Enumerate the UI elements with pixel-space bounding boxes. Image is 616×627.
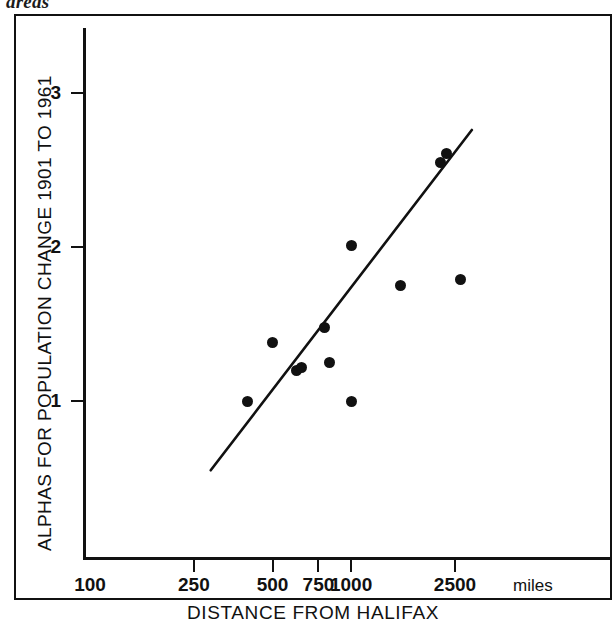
data-point (242, 396, 253, 407)
x-axis-tick-label: 2500 (434, 575, 476, 594)
data-point (324, 357, 335, 368)
x-axis-tick-mark (454, 559, 456, 572)
data-point (319, 322, 330, 333)
y-axis-title: ALPHAS FOR POPULATION CHANGE 1901 TO 196… (34, 31, 56, 551)
x-axis-unit-label: miles (513, 576, 553, 596)
plot-area: 123 10025050075010002500 miles DISTANCE … (0, 0, 616, 627)
data-point (296, 362, 307, 373)
x-axis-tick-label: 1000 (330, 575, 372, 594)
data-point (267, 337, 278, 348)
y-axis-tick-mark (71, 400, 84, 402)
data-point (395, 280, 406, 291)
x-axis-tick-mark (350, 559, 352, 572)
y-axis-tick-mark (71, 246, 84, 248)
x-axis-title: DISTANCE FROM HALIFAX (83, 602, 543, 624)
x-axis-tick-mark (317, 559, 319, 572)
x-axis-tick-label: 250 (178, 575, 210, 594)
data-point (346, 396, 357, 407)
data-point (346, 240, 357, 251)
trend-line (0, 0, 616, 627)
x-axis-line (83, 557, 612, 560)
x-axis-tick-label: 100 (74, 575, 106, 594)
data-point (441, 148, 452, 159)
x-axis-tick-mark (272, 559, 274, 572)
data-point (455, 274, 466, 285)
y-axis-line (83, 28, 86, 560)
figure-container: areas 123 10025050075010002500 miles DIS… (0, 0, 616, 627)
x-axis-tick-label: 500 (257, 575, 289, 594)
y-axis-tick-mark (71, 92, 84, 94)
x-axis-tick-mark (193, 559, 195, 572)
